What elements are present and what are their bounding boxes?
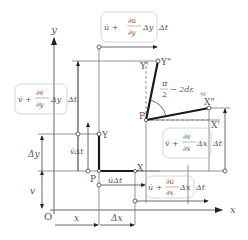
label-dy: Δy	[27, 149, 40, 159]
svg-text:∂u̇: ∂u̇	[166, 178, 175, 186]
point-marker	[97, 183, 101, 187]
svg-text:∂y: ∂y	[36, 101, 45, 109]
point-marker	[76, 132, 80, 136]
svg-text:v̇ +: v̇ +	[18, 95, 32, 104]
point-y	[97, 132, 101, 136]
point-p	[97, 169, 100, 172]
svg-text:∂y: ∂y	[128, 29, 137, 37]
label-x-double-prime: X"	[204, 97, 215, 107]
formula-v-right: v̇ + ∂v̇ ∂x Δx Δt	[163, 128, 223, 158]
svg-text:∂u̇: ∂u̇	[128, 17, 137, 25]
angle-label: π 2 − 2dε xy	[160, 79, 206, 99]
svg-text:Δy: Δy	[50, 95, 62, 104]
svg-text:π: π	[161, 79, 168, 88]
svg-text:− 2dε: − 2dε	[170, 85, 194, 94]
svg-text:Δt: Δt	[212, 139, 223, 148]
svg-text:∂x: ∂x	[183, 145, 191, 153]
label-dx: Δx	[110, 213, 123, 223]
svg-text:u̇ +: u̇ +	[148, 183, 162, 192]
strain-diagram: y x O	[0, 0, 248, 240]
label-x-prime: X'	[211, 120, 220, 130]
point-marker	[133, 199, 137, 203]
label-y: Y	[101, 130, 109, 140]
svg-text:Δt: Δt	[158, 23, 169, 32]
label-p-prime: P'	[139, 111, 148, 121]
svg-text:Δx: Δx	[196, 139, 208, 148]
formula-u-bottom: u̇ + ∂u̇ ∂x Δx Δt	[146, 176, 206, 198]
svg-text:xy: xy	[200, 90, 206, 97]
label-x: X	[137, 163, 144, 173]
formula-u-top: u̇ + ∂u̇ ∂y Δy Δt	[101, 12, 169, 42]
point-marker	[86, 169, 90, 173]
label-u-dt: u̇Δt	[108, 176, 123, 185]
angle-arc	[150, 100, 166, 116]
svg-text:2: 2	[162, 90, 167, 99]
svg-text:v̇ +: v̇ +	[165, 139, 179, 148]
label-p: P	[90, 174, 96, 184]
point-y-double-prime	[156, 59, 160, 63]
svg-text:Δx: Δx	[179, 183, 191, 192]
origin-label: O	[44, 211, 52, 222]
svg-text:Δt: Δt	[195, 183, 206, 192]
svg-text:Δt: Δt	[67, 95, 78, 104]
label-v-dt: v̇Δt	[70, 147, 84, 156]
edge-pprime-xdoubleprime	[146, 108, 209, 120]
svg-text:∂v̇: ∂v̇	[183, 133, 191, 141]
svg-text:u̇ +: u̇ +	[104, 23, 118, 32]
svg-text:∂v̇: ∂v̇	[36, 89, 44, 97]
label-y-prime: Y'	[139, 61, 148, 71]
point-marker	[97, 45, 101, 49]
svg-text:Δy: Δy	[142, 23, 154, 32]
label-x-dim: x	[74, 213, 79, 223]
svg-text:∂x: ∂x	[166, 189, 174, 197]
y-axis-label: y	[50, 24, 57, 35]
label-v: v	[30, 186, 35, 196]
label-y-double-prime: Y"	[160, 57, 171, 67]
formula-v-left: v̇ + ∂v̇ ∂y Δy Δt	[15, 84, 78, 114]
point-marker	[223, 169, 227, 173]
x-axis-label: x	[230, 204, 236, 215]
